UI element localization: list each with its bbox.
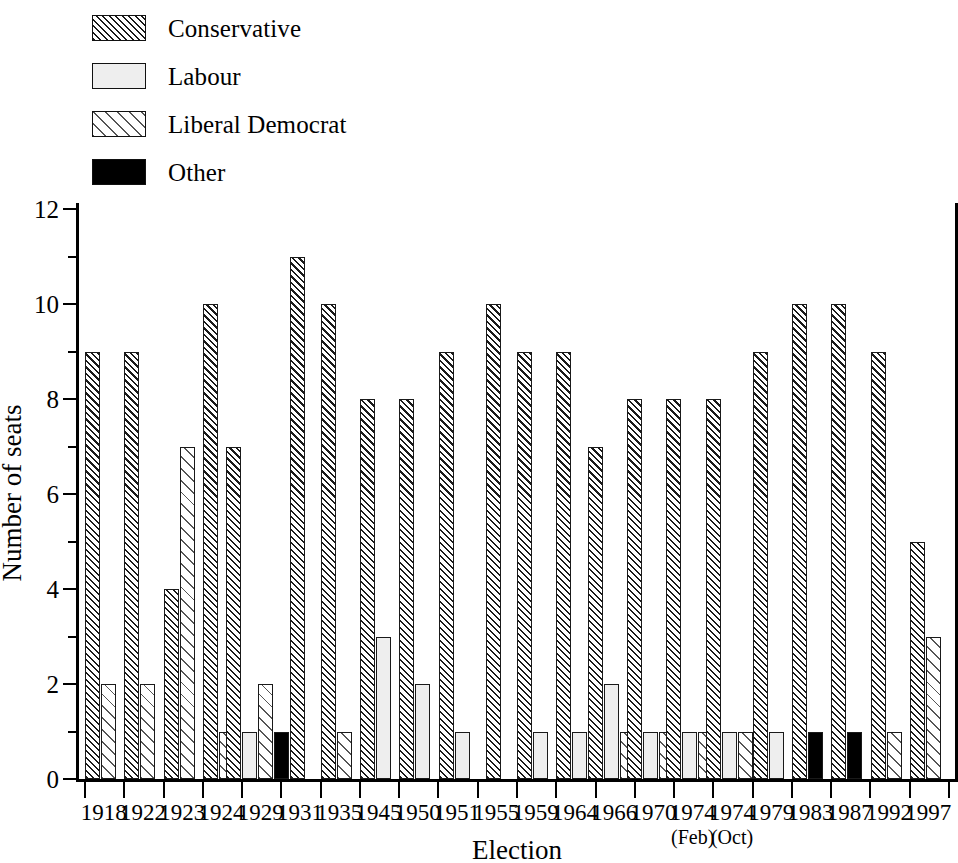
x-tick-6 bbox=[359, 782, 361, 798]
y-tick-11 bbox=[68, 256, 76, 258]
x-axis-sublabel-1974Feb: (Feb) bbox=[671, 827, 714, 847]
bar-conservative-1924 bbox=[203, 304, 218, 779]
bar-conservative-1983 bbox=[792, 304, 807, 779]
bar-conservative-1974Oct bbox=[706, 399, 721, 779]
legend-label-labour: Labour bbox=[168, 64, 241, 89]
y-tick-7 bbox=[68, 446, 76, 448]
y-tick-label-0: 0 bbox=[47, 767, 60, 792]
bar-conservative-1997 bbox=[910, 542, 925, 780]
y-tick-label-2: 2 bbox=[47, 672, 60, 697]
bar-conservative-1959 bbox=[517, 352, 532, 780]
bar-labour-1966 bbox=[604, 684, 619, 779]
y-tick-6 bbox=[63, 493, 76, 495]
bar-conservative-1935 bbox=[321, 304, 336, 779]
legend-item-other: Other bbox=[92, 148, 512, 196]
bar-labour-1945 bbox=[376, 637, 391, 780]
bar-other-1983 bbox=[808, 732, 823, 780]
x-tick-19 bbox=[869, 782, 871, 798]
y-tick-10 bbox=[63, 303, 76, 305]
bar-labour-1964 bbox=[572, 732, 587, 780]
bar-labour-1970 bbox=[643, 732, 658, 780]
legend-item-conservative: Conservative bbox=[92, 4, 512, 52]
bar-labour-1950 bbox=[415, 684, 430, 779]
bar-conservative-1979 bbox=[753, 352, 768, 780]
x-tick-3 bbox=[241, 782, 243, 798]
bar-conservative-1950 bbox=[399, 399, 414, 779]
bar-conservative-1951 bbox=[439, 352, 454, 780]
y-tick-label-10: 10 bbox=[34, 292, 59, 317]
legend-item-labour: Labour bbox=[92, 52, 512, 100]
y-tick-3 bbox=[68, 636, 76, 638]
x-tick-9 bbox=[477, 782, 479, 798]
bar-conservative-1929 bbox=[226, 447, 241, 780]
x-axis-title: Election bbox=[472, 835, 562, 863]
legend-swatch-conservative-icon bbox=[92, 15, 146, 41]
legend-label-liberal-democrat: Liberal Democrat bbox=[168, 112, 347, 137]
bar-liberal-democrat-1922 bbox=[140, 684, 155, 779]
bar-liberal-democrat-1935 bbox=[337, 732, 352, 780]
x-tick-17 bbox=[791, 782, 793, 798]
x-tick-21 bbox=[948, 782, 950, 798]
x-tick-16 bbox=[752, 782, 754, 798]
bar-liberal-democrat-1923 bbox=[180, 447, 195, 780]
x-tick-1 bbox=[163, 782, 165, 798]
x-tick-11 bbox=[555, 782, 557, 798]
bar-conservative-1992 bbox=[871, 352, 886, 780]
chart-legend: Conservative Labour Liberal Democrat Oth… bbox=[92, 4, 512, 196]
y-tick-label-4: 4 bbox=[47, 577, 60, 602]
bar-liberal-democrat-1992 bbox=[887, 732, 902, 780]
y-tick-label-8: 8 bbox=[47, 387, 60, 412]
bar-labour-1929 bbox=[242, 732, 257, 780]
x-axis-sublabel-1974Oct: (Oct) bbox=[711, 827, 753, 847]
bar-conservative-1964 bbox=[556, 352, 571, 780]
plot-area: Number of seats Election 024681012 19181… bbox=[76, 203, 958, 782]
x-tick-0 bbox=[123, 782, 125, 798]
x-tick-20 bbox=[909, 782, 911, 798]
bar-conservative-1945 bbox=[360, 399, 375, 779]
bar-conservative-1970 bbox=[627, 399, 642, 779]
bar-conservative-1918 bbox=[85, 352, 100, 780]
x-tick-14 bbox=[673, 782, 675, 798]
x-tick-2 bbox=[202, 782, 204, 798]
legend-label-other: Other bbox=[168, 160, 225, 185]
x-tick-origin bbox=[84, 782, 86, 798]
y-axis-title: Number of seats bbox=[0, 405, 28, 582]
bar-conservative-1955 bbox=[486, 304, 501, 779]
bar-labour-1979 bbox=[769, 732, 784, 780]
bar-liberal-democrat-1918 bbox=[101, 684, 116, 779]
x-axis-label-1997: 1997 bbox=[905, 801, 951, 824]
bar-labour-1959 bbox=[533, 732, 548, 780]
y-tick-0 bbox=[63, 778, 76, 780]
x-tick-7 bbox=[398, 782, 400, 798]
bar-conservative-1922 bbox=[124, 352, 139, 780]
x-tick-8 bbox=[437, 782, 439, 798]
x-tick-12 bbox=[595, 782, 597, 798]
x-tick-15 bbox=[712, 782, 714, 798]
bar-labour-1974Oct bbox=[722, 732, 737, 780]
x-tick-18 bbox=[830, 782, 832, 798]
y-tick-label-6: 6 bbox=[47, 482, 60, 507]
bar-liberal-democrat-1974Oct bbox=[738, 732, 753, 780]
legend-swatch-other-icon bbox=[92, 159, 146, 185]
bar-conservative-1974Feb bbox=[666, 399, 681, 779]
y-tick-1 bbox=[68, 731, 76, 733]
y-tick-label-12: 12 bbox=[34, 197, 59, 222]
bar-labour-1951 bbox=[455, 732, 470, 780]
y-tick-4 bbox=[63, 588, 76, 590]
bar-liberal-democrat-1929 bbox=[258, 684, 273, 779]
x-tick-13 bbox=[634, 782, 636, 798]
bar-labour-1974Feb bbox=[682, 732, 697, 780]
y-tick-2 bbox=[63, 683, 76, 685]
bar-conservative-1923 bbox=[164, 589, 179, 779]
bar-liberal-democrat-1997 bbox=[926, 637, 941, 780]
x-tick-5 bbox=[320, 782, 322, 798]
legend-item-liberal-democrat: Liberal Democrat bbox=[92, 100, 512, 148]
legend-label-conservative: Conservative bbox=[168, 16, 301, 41]
legend-swatch-labour-icon bbox=[92, 63, 146, 89]
y-tick-5 bbox=[68, 541, 76, 543]
bar-conservative-1966 bbox=[588, 447, 603, 780]
bar-conservative-1931 bbox=[290, 257, 305, 780]
y-axis-line bbox=[76, 203, 79, 782]
bar-other-1929 bbox=[274, 732, 289, 780]
